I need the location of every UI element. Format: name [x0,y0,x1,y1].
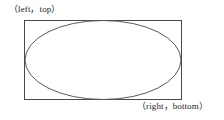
ellipse-bounding-box-figure: （left，top） （right，bottom） [0,0,224,120]
bottom-right-coordinate-label: （right，bottom） [137,101,208,112]
inscribed-ellipse [25,21,181,100]
top-left-coordinate-label: （left，top） [9,4,61,15]
